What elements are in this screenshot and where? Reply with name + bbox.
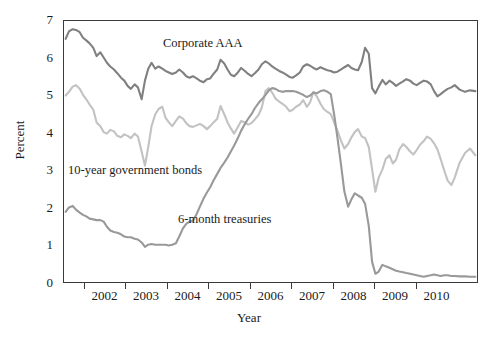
y-tick-2: 2 (31, 201, 53, 214)
plot-area (63, 20, 478, 283)
y-tick-0: 0 (31, 276, 53, 289)
ten-year-bonds-label: 10-year government bonds (68, 163, 202, 177)
y-tick-5: 5 (31, 88, 53, 101)
x-tick-2010: 2010 (407, 289, 467, 303)
x-axis-label: Year (0, 310, 498, 326)
y-axis-label: Percent (12, 100, 28, 180)
y-tick-4: 4 (31, 126, 53, 139)
series-line-6-month-treasuries (66, 88, 476, 277)
y-tick-3: 3 (31, 163, 53, 176)
six-month-treasuries-label: 6-month treasuries (178, 212, 271, 226)
corporate-aaa-label: Corporate AAA (163, 36, 243, 50)
y-tick-6: 6 (31, 51, 53, 64)
y-tick-7: 7 (31, 13, 53, 26)
series-lines (64, 21, 477, 282)
chart-figure: Percent 01234567 20022003200420052006200… (0, 0, 498, 338)
y-tick-1: 1 (31, 238, 53, 251)
